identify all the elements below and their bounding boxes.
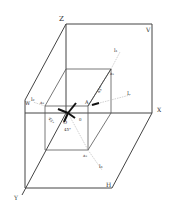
label-theta: θ bbox=[79, 117, 82, 122]
inner-cube bbox=[45, 69, 111, 150]
label-x: X bbox=[157, 106, 162, 113]
label-angle-3: 45° bbox=[64, 127, 71, 132]
label-l2: l₂ bbox=[31, 96, 35, 102]
label-a3: a₃ bbox=[83, 153, 87, 158]
label-v: V bbox=[145, 26, 151, 33]
label-a1: a₁ bbox=[110, 71, 114, 76]
label-l1: l₁ bbox=[114, 47, 118, 53]
label-z: Z bbox=[59, 15, 64, 23]
label-o: O bbox=[63, 119, 67, 125]
label-angle-1: 45° bbox=[96, 85, 104, 94]
label-a2: a₂ bbox=[40, 100, 44, 105]
projection-diagram: Z V X Y H W O A a₁ a₂ a₃ l₁ l₂ l₃ L 45° … bbox=[0, 0, 174, 215]
label-y: Y bbox=[13, 194, 19, 201]
label-l: L bbox=[127, 90, 131, 96]
label-l3: l₃ bbox=[99, 163, 103, 169]
projection-rays bbox=[33, 52, 130, 170]
label-h: H bbox=[106, 181, 111, 188]
label-a: A bbox=[84, 99, 89, 105]
label-angle-2: 45° bbox=[47, 116, 55, 125]
outer-planes bbox=[22, 24, 152, 195]
